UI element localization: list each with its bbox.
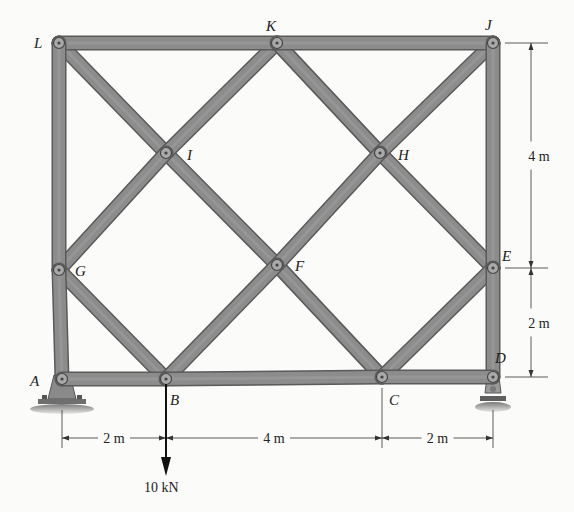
truss-figure: 2 m4 m2 m4 m2 m 10 kN LKJIHGFEABCD [0,0,574,512]
member-KH [277,43,380,153]
member-FB [166,265,277,379]
pin-I [161,148,172,159]
member-EC [382,268,493,377]
member-GA [59,270,62,379]
dimension-vertical-0: 4 m [528,43,550,268]
truss-diagram: 2 m4 m2 m4 m2 m 10 kN LKJIHGFEABCD [0,0,574,512]
node-label-H: H [397,147,410,163]
node-label-L: L [33,35,42,51]
svg-text:4 m: 4 m [263,431,285,446]
member-HF [277,153,380,265]
pin-D [488,372,499,383]
node-label-J: J [485,17,493,33]
pin-E [488,263,499,274]
pin-J [488,38,499,49]
member-HE [380,153,493,268]
pin-A [57,374,68,385]
dimension-horizontal-1: 4 m [166,431,382,446]
pin-F [272,260,283,271]
node-label-E: E [501,248,511,264]
member-GB [59,270,166,379]
member-JH [380,43,493,153]
member-IG [59,153,166,270]
node-label-D: D [494,350,506,366]
load-label: 10 kN [144,480,179,495]
node-label-B: B [170,392,179,408]
pin-H [375,148,386,159]
members-layer [59,43,493,379]
pin-L [54,38,65,49]
dimension-vertical-1: 2 m [528,268,550,377]
member-IF [166,153,277,265]
node-label-G: G [75,263,86,279]
pin-C [377,372,388,383]
node-label-A: A [29,373,40,389]
svg-text:2 m: 2 m [103,431,125,446]
svg-text:2 m: 2 m [528,316,550,331]
node-label-C: C [389,392,400,408]
node-label-K: K [265,18,277,34]
node-label-F: F [294,258,305,274]
pin-K [272,38,283,49]
pin-B [161,374,172,385]
dimension-horizontal-0: 2 m [62,431,166,446]
pin-G [54,265,65,276]
member-LI [59,43,166,153]
member-KI [166,43,277,153]
svg-text:2 m: 2 m [427,431,449,446]
node-label-I: I [186,147,193,163]
member-FC [277,265,382,377]
svg-text:4 m: 4 m [528,149,550,164]
member-BC [166,377,382,379]
dimension-horizontal-2: 2 m [382,431,493,446]
